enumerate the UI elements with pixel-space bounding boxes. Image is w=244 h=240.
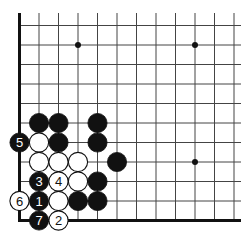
stone-disc [29,133,48,152]
move-number-label: 7 [35,213,42,228]
stone-disc [49,113,68,132]
black-stone [29,113,48,132]
move-number-label: 3 [35,174,42,189]
white-stone: 6 [10,191,29,210]
star-point-icon [192,159,198,165]
black-stone: 5 [10,133,29,152]
stone-disc [49,191,68,210]
move-number-label: 4 [55,174,62,189]
stone-disc [88,191,107,210]
stone-disc [88,133,107,152]
black-stone [88,172,107,191]
black-stone [88,133,107,152]
stone-disc [88,113,107,132]
move-number-label: 5 [16,135,23,150]
stone-disc [29,113,48,132]
white-stone [29,152,48,171]
black-stone [107,152,126,171]
stone-disc [49,152,68,171]
stone-disc [68,172,87,191]
white-stone [29,133,48,152]
stone-disc [29,152,48,171]
star-point-icon [192,42,198,48]
stone-disc [107,152,126,171]
stone-disc [68,191,87,210]
white-stone [49,152,68,171]
black-stone [49,133,68,152]
white-stone [49,191,68,210]
move-number-label: 1 [35,194,42,209]
black-stone [68,191,87,210]
stone-disc [88,172,107,191]
go-board-diagram: 5346172 [0,0,244,240]
black-stone [88,191,107,210]
black-stone [49,113,68,132]
black-stone: 3 [29,172,48,191]
black-stone [88,113,107,132]
white-stone: 4 [49,172,68,191]
black-stone: 7 [29,211,48,230]
move-number-label: 6 [16,194,23,209]
black-stone: 1 [29,191,48,210]
stone-disc [68,152,87,171]
stone-disc [49,133,68,152]
white-stone: 2 [49,211,68,230]
move-number-label: 2 [55,213,62,228]
white-stone [68,172,87,191]
white-stone [68,152,87,171]
star-point-icon [75,42,81,48]
stones: 5346172 [10,113,127,230]
